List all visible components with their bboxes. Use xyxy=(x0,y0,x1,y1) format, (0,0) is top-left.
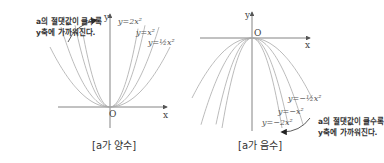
left-y-label: y xyxy=(103,12,110,22)
right-origin-label: O xyxy=(254,28,261,38)
right-caption: [a가 음수] xyxy=(238,137,282,152)
left-note: a의 절댓값이 클수록 y축에 가까워진다. xyxy=(36,16,102,38)
right-graph: y x O y=−½x² y=−x² y=−2x² xyxy=(192,10,321,132)
left-note-line1: a의 절댓값이 클수록 xyxy=(36,16,102,27)
right-curve-label-2: y=−x² xyxy=(277,107,304,116)
left-curve-label-3: y=½x² xyxy=(147,38,175,47)
left-note-line2: y축에 가까워진다. xyxy=(36,27,102,38)
left-x-label: x xyxy=(163,110,168,120)
right-y-label: y xyxy=(244,10,251,20)
right-note-line2: y축에 가까워진다. xyxy=(318,127,384,138)
left-origin-label: O xyxy=(109,109,116,119)
right-x-label: x xyxy=(305,40,310,50)
right-note-line1: a의 절댓값이 클수록 xyxy=(318,116,384,127)
right-note: a의 절댓값이 클수록 y축에 가까워진다. xyxy=(318,116,384,138)
left-curve-label-2: y=x² xyxy=(135,28,155,37)
left-caption: [a가 양수] xyxy=(92,137,136,152)
right-curve-label-3: y=−2x² xyxy=(261,118,293,127)
right-curve-label-1: y=−½x² xyxy=(287,94,321,103)
left-curve-label-1: y=2x² xyxy=(117,17,142,26)
